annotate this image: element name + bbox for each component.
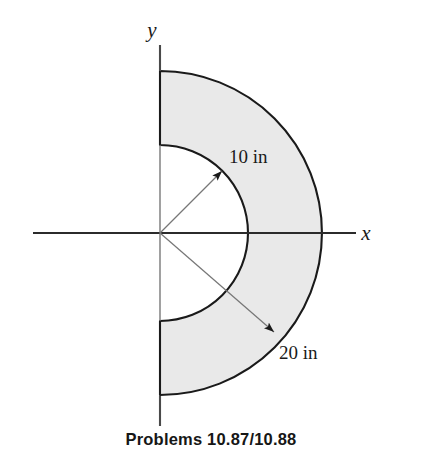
outer-radius-label: 20 in xyxy=(279,342,318,363)
half-annulus-diagram: y x 10 in 20 in xyxy=(0,0,422,463)
figure-container: y x 10 in 20 in Problems 10.87/10.88 xyxy=(0,0,422,463)
inner-radius-dimension-line xyxy=(160,171,222,233)
figure-caption: Problems 10.87/10.88 xyxy=(0,430,422,449)
inner-radius-label: 10 in xyxy=(229,146,268,167)
y-axis-label: y xyxy=(145,18,157,42)
x-axis-label: x xyxy=(360,221,371,245)
